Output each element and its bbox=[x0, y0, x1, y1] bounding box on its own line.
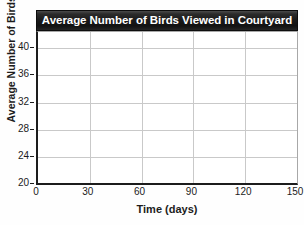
gridline-horizontal bbox=[38, 48, 297, 49]
chart-figure: Average Number of Birds Viewed in Courty… bbox=[0, 0, 304, 225]
plot-area bbox=[36, 31, 298, 185]
y-axis-tick-label: 40 bbox=[18, 42, 29, 52]
gridline-vertical bbox=[142, 32, 143, 183]
x-axis-tick-label: 90 bbox=[186, 187, 197, 197]
y-axis-tick-label: 32 bbox=[18, 97, 29, 107]
y-axis-title: Average Number of Birds bbox=[6, 0, 17, 124]
x-axis-tick-label: 60 bbox=[134, 187, 145, 197]
x-axis-tick-label: 30 bbox=[82, 187, 93, 197]
gridline-horizontal bbox=[38, 103, 297, 104]
x-axis-tick-label: 150 bbox=[287, 187, 304, 197]
gridline-vertical bbox=[193, 32, 194, 183]
y-axis-tick-mark bbox=[30, 47, 34, 48]
chart-title: Average Number of Birds Viewed in Courty… bbox=[42, 15, 292, 27]
chart-title-bar: Average Number of Birds Viewed in Courty… bbox=[36, 10, 298, 31]
gridline-vertical bbox=[245, 32, 246, 183]
gridline-vertical bbox=[90, 32, 91, 183]
y-axis-tick-mark bbox=[30, 129, 34, 130]
y-axis-tick-label: 28 bbox=[18, 124, 29, 134]
gridline-horizontal bbox=[38, 130, 297, 131]
y-axis-tick-mark bbox=[30, 74, 34, 75]
y-axis-tick-label: 20 bbox=[18, 178, 29, 188]
gridline-horizontal bbox=[38, 157, 297, 158]
y-axis-tick-label: 24 bbox=[18, 151, 29, 161]
x-axis-tick-label: 0 bbox=[33, 187, 39, 197]
y-axis-tick-mark bbox=[30, 183, 34, 184]
x-axis-title: Time (days) bbox=[36, 204, 298, 215]
y-axis-tick-mark bbox=[30, 156, 34, 157]
gridline-horizontal bbox=[38, 75, 297, 76]
x-axis-tick-label: 120 bbox=[235, 187, 252, 197]
x-axis-tick-labels: 0306090120150 bbox=[36, 187, 298, 201]
y-axis-tick-mark bbox=[30, 102, 34, 103]
y-axis-tick-label: 36 bbox=[18, 69, 29, 79]
